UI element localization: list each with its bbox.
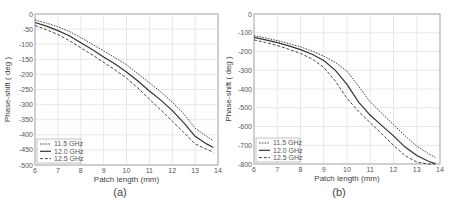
- y-tick-label: -400: [19, 131, 33, 138]
- y-tick-label: -800: [238, 161, 252, 168]
- x-tick-label: 7: [275, 166, 279, 173]
- y-tick-label: -400: [238, 86, 252, 93]
- series-line: [35, 23, 213, 148]
- y-tick-label: -500: [238, 104, 252, 111]
- y-tick-label: -350: [19, 116, 33, 123]
- y-tick-label: -100: [238, 29, 252, 36]
- y-tick-label: -450: [19, 146, 33, 153]
- x-axis-label: Patch length (mm): [314, 174, 380, 183]
- x-tick-label: 12: [390, 166, 398, 173]
- x-tick-label: 10: [123, 167, 131, 174]
- legend-entry-label: 12.0 GHz: [273, 147, 303, 154]
- y-tick-label: -300: [19, 101, 33, 108]
- y-tick-label: -500: [19, 162, 33, 169]
- y-tick-label: -200: [19, 71, 33, 78]
- x-tick-label: 14: [436, 166, 444, 173]
- x-tick-label: 13: [413, 166, 421, 173]
- y-tick-label: -200: [238, 48, 252, 55]
- y-tick-label: 0: [29, 11, 33, 18]
- legend-entry-label: 12.0 GHz: [54, 148, 84, 155]
- x-tick-label: 9: [102, 167, 106, 174]
- legend-entry-label: 11.5 GHz: [273, 139, 303, 146]
- figure: 678910111213140-50-100-150-200-250-300-3…: [0, 0, 454, 207]
- legend: 11.5 GHz12.0 GHz12.5 GHz: [37, 139, 84, 163]
- x-axis-label: Patch length (mm): [94, 175, 160, 184]
- y-tick-label: -600: [238, 123, 252, 130]
- legend-entry-label: 12.5 GHz: [273, 154, 303, 161]
- x-tick-label: 9: [322, 166, 326, 173]
- x-tick-label: 6: [252, 166, 256, 173]
- y-tick-label: 0: [248, 11, 252, 18]
- panel-label: (a): [113, 186, 126, 198]
- x-tick-label: 8: [79, 167, 83, 174]
- y-tick-label: -150: [19, 56, 33, 63]
- x-tick-label: 10: [343, 166, 351, 173]
- chart-panel-a: 678910111213140-50-100-150-200-250-300-3…: [3, 11, 222, 199]
- x-tick-label: 14: [214, 167, 222, 174]
- y-tick-label: -250: [19, 86, 33, 93]
- x-tick-label: 6: [33, 167, 37, 174]
- y-tick-label: -50: [23, 26, 33, 33]
- y-axis-label: Phase-shift ( deg ): [3, 56, 12, 122]
- legend-entry-label: 12.5 GHz: [54, 155, 84, 162]
- y-tick-label: -700: [238, 142, 252, 149]
- y-tick-label: -100: [19, 41, 33, 48]
- y-tick-label: -300: [238, 67, 252, 74]
- x-tick-label: 13: [191, 167, 199, 174]
- legend-entry-label: 11.5 GHz: [54, 140, 84, 147]
- series-line: [35, 20, 213, 141]
- y-axis-label: Phase-shift ( deg ): [224, 56, 233, 122]
- chart-panel-b: 678910111213140-100-200-300-400-500-600-…: [224, 11, 444, 199]
- x-tick-label: 12: [168, 167, 176, 174]
- legend: 11.5 GHz12.0 GHz12.5 GHz: [256, 138, 303, 162]
- x-tick-label: 11: [367, 166, 374, 173]
- x-tick-label: 11: [146, 167, 153, 174]
- x-tick-label: 8: [299, 166, 303, 173]
- panel-label: (b): [332, 186, 345, 198]
- x-tick-label: 7: [56, 167, 60, 174]
